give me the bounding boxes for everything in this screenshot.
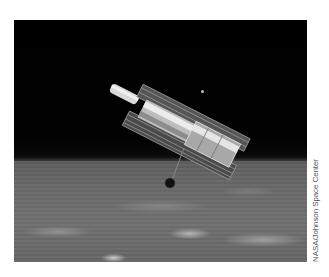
hubble-telescope xyxy=(14,20,307,262)
photo-figure xyxy=(14,20,307,262)
photo-credit: NASA/Johnson Space Center xyxy=(311,159,320,262)
